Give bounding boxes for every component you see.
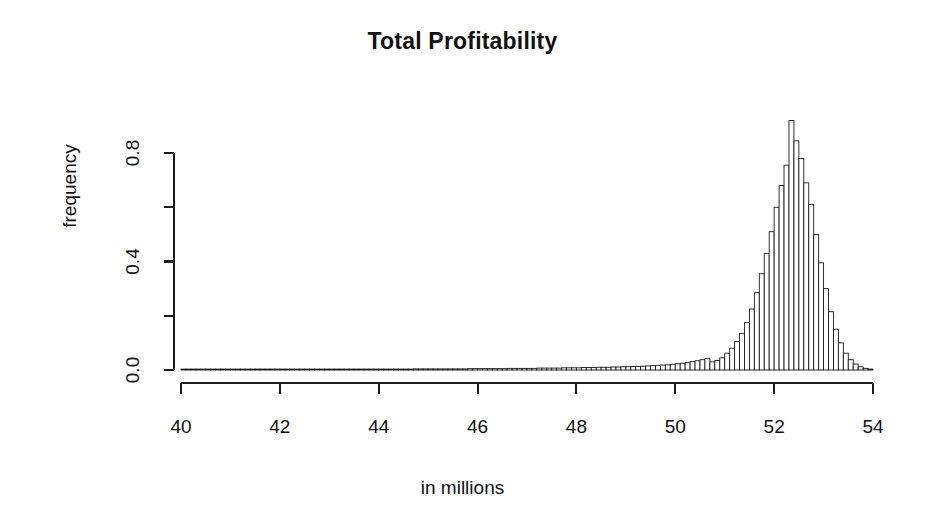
histogram-bar [735,342,740,370]
x-tick-label: 40 [170,416,191,437]
histogram-bar [571,368,576,370]
histogram-bar [305,369,310,370]
histogram-bar [843,353,848,370]
histogram-bar [408,369,413,370]
histogram-bar [319,369,324,370]
histogram-bar [542,368,547,370]
histogram-bar [300,369,305,370]
histogram-bar [670,364,675,370]
histogram-bar [270,369,275,370]
x-tick-label: 52 [764,416,785,437]
histogram-bar [809,205,814,370]
histogram-bar [700,360,705,370]
histogram-bar [507,368,512,370]
x-tick-label: 42 [269,416,290,437]
histogram-bar [848,360,853,370]
histogram-bar [824,289,829,370]
x-tick-label: 50 [665,416,686,437]
histogram-bar [779,186,784,370]
y-tick-label: 0.4 [122,248,143,275]
histogram-bar [774,207,779,370]
histogram-bar [423,369,428,370]
histogram-bar [601,367,606,370]
histogram-bar [324,369,329,370]
histogram-bar [290,369,295,370]
histogram-bar [646,366,651,370]
histogram-bar [314,369,319,370]
y-axis [164,153,174,370]
histogram-bar [483,369,488,370]
histogram-bar [448,369,453,370]
y-tick-label: 0.8 [122,140,143,166]
histogram-bar [715,361,720,370]
histogram-bar [418,369,423,370]
histogram-bar [349,369,354,370]
histogram-bar [438,369,443,370]
histogram-bar [581,368,586,370]
histogram-bar [502,369,507,370]
x-tick-labels: 4042444648505254 [170,416,884,437]
histogram-bar [685,362,690,370]
histogram-bar [868,369,873,370]
histogram-bar [473,369,478,370]
histogram-bar [725,353,730,370]
y-tick-labels: 0.00.40.8 [122,140,143,383]
histogram-bar [641,366,646,370]
histogram-bar [814,234,819,370]
histogram-bar [181,369,186,370]
histogram-bar [621,367,626,370]
histogram-bar [586,368,591,370]
histogram-bar [665,365,670,370]
x-axis [181,383,873,394]
histogram-bar [631,366,636,370]
histogram-bar [522,368,527,370]
histogram-bar [344,369,349,370]
histogram-bar [567,368,572,370]
histogram-bar [764,253,769,370]
histogram-bar [492,369,497,370]
histogram-bar [339,369,344,370]
histogram-bar [680,363,685,370]
histogram-bar [443,369,448,370]
histogram-bar [626,367,631,370]
histogram-figure: Total Profitability frequency in million… [0,0,925,531]
histogram-bar [221,369,226,370]
histogram-bar [329,369,334,370]
plot-area: 4042444648505254 0.00.40.8 [0,0,925,531]
histogram-bar [784,165,789,370]
histogram-bar [512,368,517,370]
histogram-bar [285,369,290,370]
histogram-bar [690,362,695,370]
histogram-bar [196,369,201,370]
histogram-bar [398,369,403,370]
histogram-bar [829,312,834,370]
histogram-bar [562,368,567,370]
histogram-bar [537,368,542,370]
histogram-bar [384,369,389,370]
histogram-bar [705,358,710,370]
histogram-bar [225,369,230,370]
histogram-bar [660,365,665,370]
histogram-bar [838,343,843,370]
histogram-bar [819,263,824,370]
histogram-bar [799,158,804,370]
histogram-bar [611,367,616,370]
histogram-bar [487,369,492,370]
histogram-bar [359,369,364,370]
histogram-bar [413,369,418,370]
x-tick-label: 48 [566,416,587,437]
histogram-bar [280,369,285,370]
histogram-bar [804,183,809,370]
histogram-bar [211,369,216,370]
histogram-bar [379,369,384,370]
histogram-bar [576,368,581,370]
histogram-bar [216,369,221,370]
histogram-bar [206,369,211,370]
histogram-bar [374,369,379,370]
histogram-bar [532,368,537,370]
histogram-bar [458,369,463,370]
chart-svg: 4042444648505254 0.00.40.8 [0,0,925,531]
histogram-bar [186,369,191,370]
histogram-bar [557,368,562,370]
histogram-bar [616,367,621,370]
